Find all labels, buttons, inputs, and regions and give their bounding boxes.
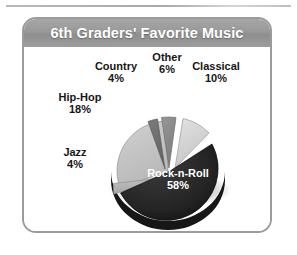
slice-label-other-pct: 6% xyxy=(145,63,189,75)
slice-label-other-name: Other xyxy=(152,51,181,63)
slice-label-rock-pct: 58% xyxy=(138,179,218,191)
slice-label-classical-pct: 10% xyxy=(184,72,248,84)
slice-label-jazz-name: Jazz xyxy=(63,146,86,158)
slice-label-country: Country 4% xyxy=(84,60,148,85)
pie-chart-plot-area: Country 4% Other 6% Classical 10% Hip-Ho… xyxy=(24,47,270,231)
slice-label-other: Other 6% xyxy=(145,51,189,76)
slice-label-hiphop: Hip-Hop 18% xyxy=(51,91,109,116)
slice-label-hiphop-pct: 18% xyxy=(51,103,109,115)
slice-label-country-name: Country xyxy=(95,60,137,72)
slice-label-country-pct: 4% xyxy=(84,72,148,84)
slice-label-jazz: Jazz 4% xyxy=(54,146,96,171)
slice-label-hiphop-name: Hip-Hop xyxy=(59,91,102,103)
slice-label-classical: Classical 10% xyxy=(184,60,248,85)
slice-label-rock-name: Rock-n-Roll xyxy=(147,167,209,179)
slice-label-jazz-pct: 4% xyxy=(54,158,96,170)
slice-label-classical-name: Classical xyxy=(192,60,240,72)
chart-title-bar: 6th Graders' Favorite Music xyxy=(24,19,270,47)
top-divider-rule xyxy=(6,5,291,7)
chart-frame: 6th Graders' Favorite Music xyxy=(22,17,272,233)
chart-title: 6th Graders' Favorite Music xyxy=(50,25,243,41)
slice-label-rock: Rock-n-Roll 58% xyxy=(138,167,218,192)
